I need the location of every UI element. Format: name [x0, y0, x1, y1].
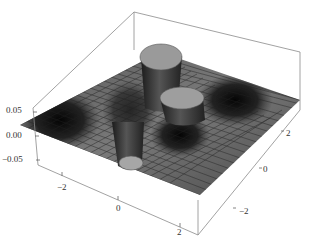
x-tick-label: 0 [116, 204, 121, 213]
x-tick-label: 2 [177, 228, 182, 237]
y-tick-label: 0 [263, 165, 268, 174]
z-tick-label: 0.05 [6, 106, 22, 115]
z-tick-label: −0.05 [2, 155, 23, 164]
surface-plot [0, 0, 310, 248]
x-tick-label: −2 [57, 183, 67, 192]
y-tick-label: 2 [286, 129, 291, 138]
peak-front [112, 122, 144, 170]
peak-right [160, 87, 205, 126]
y-tick-label: −2 [239, 207, 249, 216]
z-tick-label: 0.00 [6, 131, 22, 140]
